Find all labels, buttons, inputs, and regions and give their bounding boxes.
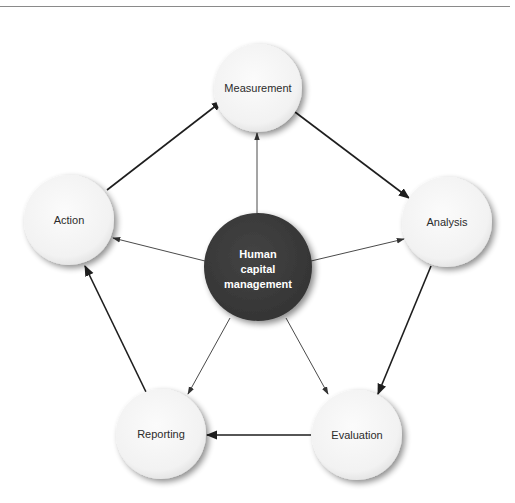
arrow-center-to-analysis	[311, 239, 404, 261]
arrow-analysis-to-evaluation	[378, 266, 431, 394]
node-analysis: Analysis	[402, 177, 492, 267]
node-evaluation: Evaluation	[312, 390, 402, 480]
node-label-reporting: Reporting	[137, 428, 185, 440]
node-reporting: Reporting	[116, 389, 206, 479]
node-label-measurement: Measurement	[224, 82, 291, 94]
node-label-action: Action	[54, 214, 85, 226]
center-label-line-1: Human	[239, 248, 277, 260]
center-label-line-3: management	[224, 278, 292, 290]
node-measurement: Measurement	[214, 44, 302, 132]
arrow-measurement-to-analysis	[295, 112, 409, 198]
arrow-center-to-evaluation	[286, 318, 328, 394]
node-label-analysis: Analysis	[427, 216, 468, 228]
center-label-line-2: capital	[241, 263, 276, 275]
center-node-human-capital-management: Human capital management	[204, 213, 312, 321]
arrow-reporting-to-action	[85, 266, 146, 392]
node-action: Action	[24, 175, 114, 265]
arrow-center-to-action	[113, 238, 205, 261]
arrow-center-to-reporting	[188, 318, 230, 394]
arrow-action-to-measurement	[107, 101, 222, 190]
node-label-evaluation: Evaluation	[331, 429, 382, 441]
hcm-cycle-diagram: Measurement Analysis Evaluation Reportin…	[0, 0, 515, 503]
